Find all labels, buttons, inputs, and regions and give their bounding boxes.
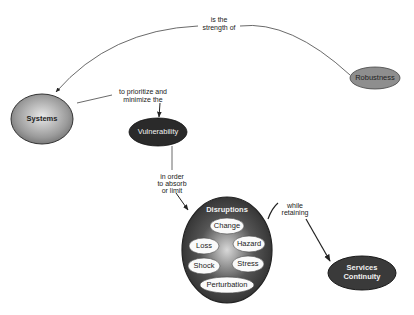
node-label-line1: Services bbox=[347, 263, 378, 272]
node-label-line2: Continuity bbox=[343, 272, 381, 281]
sub-node-perturbation[interactable]: Perturbation bbox=[200, 277, 254, 293]
node-label: Robustness bbox=[355, 73, 395, 82]
edge-robustness-systems: is the strength of bbox=[56, 16, 350, 92]
sub-node-shock[interactable]: Shock bbox=[188, 258, 220, 274]
edge-arrow bbox=[306, 219, 330, 261]
edge-label-line1: while bbox=[286, 202, 303, 209]
edge-label-line1: to prioritize and bbox=[119, 88, 167, 96]
edge-line bbox=[268, 203, 278, 219]
sub-node-label: Loss bbox=[196, 241, 212, 250]
edge-disruptions-services: while retaining bbox=[268, 202, 330, 261]
edge-arrow bbox=[56, 26, 198, 92]
node-disruptions[interactable]: Disruptions Change Loss Hazard Shock Str… bbox=[182, 197, 272, 303]
edge-label-line3: or limit bbox=[162, 187, 183, 194]
node-services-continuity[interactable]: Services Continuity bbox=[328, 256, 396, 290]
sub-node-label: Hazard bbox=[237, 239, 261, 248]
sub-node-change[interactable]: Change bbox=[210, 218, 244, 234]
node-label: Systems bbox=[27, 114, 58, 123]
concept-map-canvas: is the strength of to prioritize and min… bbox=[0, 0, 414, 315]
edge-label-line2: retaining bbox=[282, 209, 309, 217]
node-robustness[interactable]: Robustness bbox=[350, 67, 400, 89]
sub-node-label: Change bbox=[214, 221, 240, 230]
edge-label-line2: minimize the bbox=[123, 96, 162, 103]
node-label: Disruptions bbox=[206, 205, 248, 214]
sub-node-label: Shock bbox=[194, 261, 215, 270]
node-label: Vulnerability bbox=[138, 127, 179, 136]
edge-line bbox=[240, 25, 350, 75]
edge-arrow bbox=[176, 193, 188, 210]
sub-node-label: Perturbation bbox=[207, 280, 248, 289]
sub-node-hazard[interactable]: Hazard bbox=[233, 236, 265, 252]
node-systems[interactable]: Systems bbox=[11, 94, 73, 144]
edge-systems-vulnerability: to prioritize and minimize the bbox=[77, 88, 167, 117]
edge-label-line1: is the bbox=[211, 16, 228, 23]
edge-vulnerability-disruptions: in order to absorb or limit bbox=[157, 146, 188, 210]
sub-node-label: Stress bbox=[237, 259, 259, 268]
node-vulnerability[interactable]: Vulnerability bbox=[129, 118, 187, 146]
edge-label-line1: in order bbox=[160, 173, 184, 180]
edge-arrow bbox=[159, 103, 160, 117]
sub-node-stress[interactable]: Stress bbox=[232, 256, 264, 272]
edge-label-line2: strength of bbox=[202, 24, 235, 32]
edge-line bbox=[77, 95, 112, 103]
edge-label-line2: to absorb bbox=[157, 180, 186, 187]
sub-node-loss[interactable]: Loss bbox=[189, 238, 219, 254]
